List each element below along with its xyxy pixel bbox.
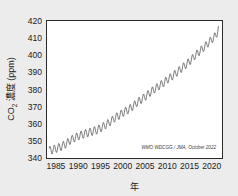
x-tick-label: 2020 bbox=[202, 161, 221, 171]
y-tick-label: 380 bbox=[28, 85, 42, 95]
x-tick-label: 2000 bbox=[113, 161, 132, 171]
y-tick-label: 360 bbox=[28, 119, 42, 129]
y-axis-title: CO2 濃度 (ppm) bbox=[5, 57, 18, 121]
y-tick-label: 350 bbox=[28, 136, 42, 146]
y-tick-label: 420 bbox=[28, 16, 42, 26]
x-tick-label: 1985 bbox=[46, 161, 65, 171]
source-attribution: WMO WDCGG / JMA, October 2022 bbox=[141, 145, 216, 150]
x-tick-label: 1990 bbox=[69, 161, 88, 171]
co2-concentration-chart-figure: 340350360370380390400410420 198519901995… bbox=[0, 0, 238, 196]
y-tick-label: 390 bbox=[28, 67, 42, 77]
y-tick-label: 410 bbox=[28, 33, 42, 43]
y-axis-tick-labels: 340350360370380390400410420 bbox=[28, 16, 42, 163]
y-axis-title-main: CO bbox=[6, 107, 16, 121]
x-axis-title: 年 bbox=[130, 181, 139, 192]
y-tick-label: 400 bbox=[28, 50, 42, 60]
y-tick-label: 370 bbox=[28, 102, 42, 112]
x-tick-label: 2010 bbox=[158, 161, 177, 171]
x-tick-label: 1995 bbox=[91, 161, 110, 171]
x-tick-label: 2015 bbox=[180, 161, 199, 171]
y-tick-label: 340 bbox=[28, 153, 42, 163]
chart-canvas: 340350360370380390400410420 198519901995… bbox=[0, 0, 238, 196]
x-tick-label: 2005 bbox=[136, 161, 155, 171]
y-axis-title-rest: 濃度 (ppm) bbox=[5, 57, 16, 104]
